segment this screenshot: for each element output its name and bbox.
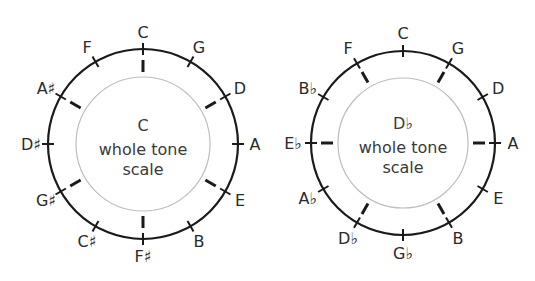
scale-name-line1: whole tone bbox=[359, 138, 447, 157]
note-label: D♯ bbox=[21, 135, 41, 154]
note-label: A♭ bbox=[298, 189, 317, 208]
scale-name-line2: scale bbox=[382, 158, 423, 177]
note-label: G♭ bbox=[393, 244, 413, 263]
circle-of-fifths-diagrams: C whole tone scale CGDAEBF♯C♯G♯D♯A♯F D♭ … bbox=[0, 0, 535, 281]
c-whole-tone-circle: C whole tone scale CGDAEBF♯C♯G♯D♯A♯F bbox=[21, 23, 261, 266]
note-label: E bbox=[493, 189, 503, 208]
note-label: E bbox=[235, 191, 245, 210]
scale-note-tick bbox=[205, 102, 215, 108]
note-label: F bbox=[82, 38, 91, 57]
scale-note-tick bbox=[70, 180, 80, 186]
note-label: E♭ bbox=[284, 134, 302, 153]
note-label: D bbox=[492, 79, 504, 98]
scale-name-line2: scale bbox=[122, 160, 163, 179]
note-label: B♭ bbox=[298, 79, 317, 98]
note-label: B bbox=[194, 232, 205, 251]
scale-root-label: C bbox=[137, 116, 148, 135]
scale-note-tick bbox=[362, 72, 368, 82]
note-label: C bbox=[137, 23, 148, 42]
note-label: C♯ bbox=[78, 232, 97, 251]
note-label: C bbox=[397, 24, 408, 43]
note-label: G♯ bbox=[36, 191, 56, 210]
scale-note-tick bbox=[205, 180, 215, 186]
note-label: F♯ bbox=[135, 247, 152, 266]
scale-root-label: D♭ bbox=[393, 114, 413, 133]
scale-note-tick bbox=[70, 102, 80, 108]
scale-name-line1: whole tone bbox=[99, 140, 187, 159]
note-label: G bbox=[193, 38, 205, 57]
note-label: B bbox=[453, 229, 464, 248]
note-label: F bbox=[343, 39, 352, 58]
note-label: D♭ bbox=[338, 229, 358, 248]
note-label: D bbox=[234, 79, 246, 98]
note-label: A bbox=[250, 135, 261, 154]
scale-note-tick bbox=[438, 204, 444, 214]
scale-note-tick bbox=[362, 204, 368, 214]
note-label: G bbox=[452, 39, 464, 58]
note-label: A♯ bbox=[37, 79, 56, 98]
note-label: A bbox=[508, 134, 519, 153]
scale-note-tick bbox=[438, 72, 444, 82]
db-whole-tone-circle: D♭ whole tone scale CGDAEBG♭D♭A♭E♭B♭F bbox=[284, 24, 518, 263]
